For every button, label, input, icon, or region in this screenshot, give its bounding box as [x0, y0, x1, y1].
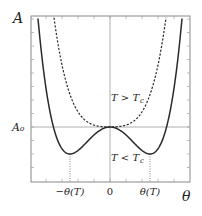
tick-label-neg-theta: −θ(T) — [56, 186, 85, 197]
a0-label: A₀ — [11, 121, 25, 134]
label-below-tc: T < T c — [111, 152, 144, 165]
label-above-tc-sub: c — [140, 97, 144, 105]
tick-label-zero: 0 — [107, 186, 113, 197]
label-below-tc-main: T < T — [111, 152, 140, 163]
landau-diagram: A θ A₀ −θ(T) 0 θ(T) T > T c T < T c — [0, 0, 202, 216]
label-above-tc: T > T c — [111, 92, 144, 105]
label-below-tc-sub: c — [140, 157, 144, 165]
y-axis-label: A — [11, 10, 23, 26]
x-axis-label: θ — [182, 188, 191, 204]
label-above-tc-main: T > T — [111, 92, 140, 103]
tick-label-pos-theta: θ(T) — [140, 186, 161, 197]
